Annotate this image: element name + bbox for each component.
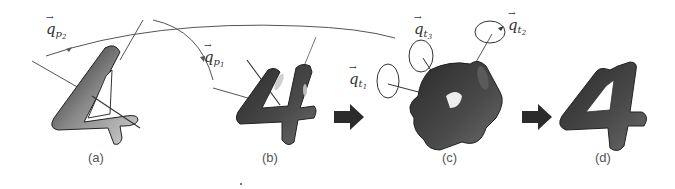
figure: qp2 qp1 qt1 qt3 qt2 (a) (b) (c) (d) [0,0,675,189]
vector-q: q [414,22,424,37]
arrow-c-to-d [522,104,552,130]
label-qp1: qp1 [204,50,224,69]
vector-q: q [46,22,56,37]
stray-dot [240,183,242,185]
label-qt2: qt2 [508,18,526,37]
label-qp2: qp2 [46,22,66,41]
shape-b [213,37,316,145]
vector-q: q [508,18,518,33]
shape-c [377,21,505,150]
panel-label-a: (a) [88,150,104,165]
vector-q: q [349,72,359,87]
label-qt1: qt1 [349,72,367,91]
arrow-b-to-c [334,104,364,130]
vector-q: q [204,50,214,65]
panel-label-c: (c) [442,150,457,165]
label-qt3: qt3 [414,22,432,41]
panel-label-b: (b) [262,150,278,165]
shape-d [560,62,647,151]
panel-label-d: (d) [595,150,611,165]
